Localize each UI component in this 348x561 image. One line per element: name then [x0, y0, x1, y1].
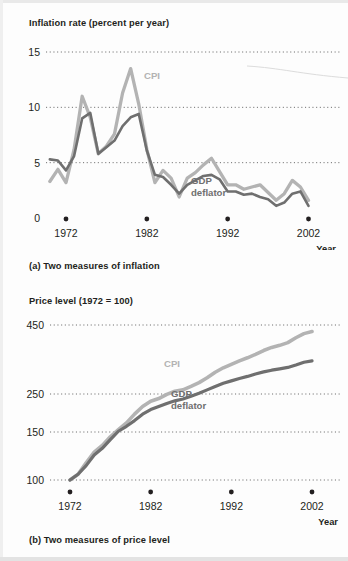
- panel-b-caption: (b) Two measures of price level: [29, 535, 170, 545]
- xtick-label-2002: 2002: [300, 500, 324, 512]
- ytick-label-15: 15: [28, 46, 40, 58]
- xtick-label-1982: 1982: [139, 500, 163, 512]
- scan-artifact: [247, 66, 348, 78]
- ytick-label-250: 250: [26, 388, 44, 400]
- xtick-dot-1992: [229, 490, 234, 495]
- xtick-dot-1972: [68, 490, 73, 495]
- figure-page: Inflation rate (percent per year) 051015…: [0, 0, 348, 561]
- xtick-dot-2002: [306, 217, 311, 222]
- chart-price-level: 1001502504501972198219922002YearCPIGDPde…: [0, 281, 348, 526]
- xtick-label-1982: 1982: [135, 227, 159, 239]
- series-label-gdp: GDP: [171, 388, 192, 399]
- ytick-label-10: 10: [28, 101, 40, 113]
- xtick-label-1992: 1992: [216, 227, 240, 239]
- panel-price-level: Price level (1972 = 100) 100150250450197…: [0, 281, 348, 561]
- ytick-label-5: 5: [34, 157, 40, 169]
- ytick-label-0: 0: [34, 212, 40, 224]
- series-line-gdp-deflator: [70, 361, 312, 480]
- ytick-label-100: 100: [26, 474, 44, 486]
- series-label-deflator: deflator: [171, 400, 206, 411]
- series-label-cpi: CPI: [164, 358, 180, 369]
- chart-inflation-rate: 0510151972198219922002YearCPIGDPdeflator: [0, 0, 348, 250]
- panel-inflation-rate: Inflation rate (percent per year) 051015…: [0, 0, 348, 281]
- xtick-dot-1982: [144, 217, 149, 222]
- ytick-label-450: 450: [26, 319, 44, 331]
- series-line-cpi: [50, 69, 309, 201]
- ytick-label-150: 150: [26, 426, 44, 438]
- xtick-dot-2002: [310, 490, 315, 495]
- panel-a-caption: (a) Two measures of inflation: [29, 261, 160, 271]
- xtick-dot-1992: [225, 217, 230, 222]
- series-label-gdp: GDP: [191, 175, 212, 186]
- xtick-dot-1982: [148, 490, 153, 495]
- xaxis-name: Year: [316, 244, 336, 250]
- series-label-cpi: CPI: [144, 70, 160, 81]
- xtick-label-2002: 2002: [297, 227, 321, 239]
- xtick-label-1972: 1972: [58, 500, 82, 512]
- series-label-deflator: deflator: [191, 187, 226, 198]
- xtick-label-1972: 1972: [54, 227, 78, 239]
- xaxis-name: Year: [318, 517, 338, 526]
- xtick-dot-1972: [64, 217, 69, 222]
- xtick-label-1992: 1992: [220, 500, 244, 512]
